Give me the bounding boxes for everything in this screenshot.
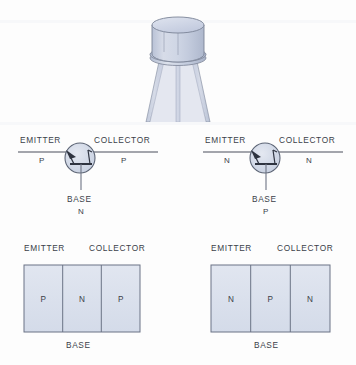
pnp-block-zone-2: P: [118, 295, 124, 304]
pnp-collector-type: P: [121, 156, 127, 165]
symbol-row: EMITTER COLLECTOR P P BASE N EMITTER: [0, 126, 356, 222]
npn-symbol: EMITTER COLLECTOR N N BASE P: [203, 135, 343, 216]
transistor-leads: [146, 57, 210, 122]
npn-block-base-label: BASE: [254, 340, 279, 350]
npn-block-zone-2: N: [307, 295, 313, 304]
npn-block-zone-0: N: [228, 295, 234, 304]
npn-emitter-type: N: [224, 156, 230, 165]
pnp-emitter-label: EMITTER: [20, 135, 61, 145]
npn-block-diagram: EMITTER COLLECTOR N P N BASE: [211, 243, 333, 350]
npn-block-collector-label: COLLECTOR: [277, 243, 333, 253]
transistor-top-cap: [152, 17, 204, 33]
npn-base-type: P: [263, 207, 269, 216]
pnp-block-base-label: BASE: [66, 340, 91, 350]
npn-base-label: BASE: [252, 194, 277, 204]
npn-block-zone-1: P: [268, 295, 274, 304]
npn-envelope-circle: [250, 143, 280, 173]
pnp-symbol: EMITTER COLLECTOR P P BASE N: [18, 135, 158, 216]
npn-collector-label: COLLECTOR: [279, 135, 335, 145]
npn-emitter-label: EMITTER: [205, 135, 246, 145]
pnp-collector-label: COLLECTOR: [94, 135, 150, 145]
pnp-block-zone-1: N: [79, 295, 85, 304]
pnp-block-diagram: EMITTER COLLECTOR P N P BASE: [24, 243, 145, 350]
transistor-photo: [0, 0, 356, 122]
pnp-envelope-circle: [65, 143, 95, 173]
pnp-emitter-type: P: [39, 156, 45, 165]
pnp-block-collector-label: COLLECTOR: [89, 243, 145, 253]
pnp-base-label: BASE: [67, 194, 92, 204]
pnp-block-emitter-label: EMITTER: [24, 243, 65, 253]
pnp-block-zone-0: P: [41, 295, 47, 304]
npn-collector-type: N: [306, 156, 312, 165]
npn-block-emitter-label: EMITTER: [211, 243, 252, 253]
pnp-base-type: N: [78, 207, 84, 216]
block-row: EMITTER COLLECTOR P N P BASE EMITTER COL…: [0, 236, 356, 365]
figure-canvas: EMITTER COLLECTOR P P BASE N EMITTER: [0, 0, 356, 365]
scan-artifact-2: [0, 122, 356, 125]
